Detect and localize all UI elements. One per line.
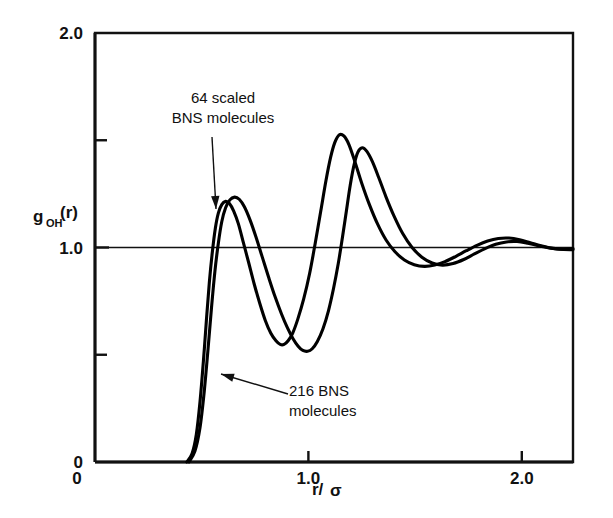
annot-64-scaled-arrowhead bbox=[211, 196, 219, 209]
y-tick-label-0: 0 bbox=[74, 453, 83, 472]
annot-64-scaled-line-1: BNS molecules bbox=[172, 109, 275, 126]
curve-annotations: 64 scaledBNS molecules216 BNSmolecules bbox=[172, 89, 357, 419]
rdf-chart: 01.02.001.02.0 64 scaledBNS molecules216… bbox=[0, 0, 613, 518]
annot-216-arrowhead bbox=[221, 374, 235, 382]
y-tick-label-2: 1.0 bbox=[59, 239, 83, 258]
annot-64-scaled-line-0: 64 scaled bbox=[191, 89, 255, 106]
annot-216-line-0: 216 BNS bbox=[289, 382, 349, 399]
figure-container: 01.02.001.02.0 64 scaledBNS molecules216… bbox=[0, 0, 613, 518]
x-tick-label-2: 2.0 bbox=[510, 469, 534, 488]
y-axis-label: g bbox=[33, 207, 43, 226]
y-tick-label-4: 2.0 bbox=[59, 24, 83, 43]
curve-series-1 bbox=[189, 148, 573, 462]
data-curves bbox=[187, 134, 573, 462]
x-axis-label-sigma: σ bbox=[330, 481, 342, 500]
annot-216-line-1: molecules bbox=[289, 402, 357, 419]
y-axis-label-variable: (r) bbox=[60, 203, 78, 222]
x-axis-label: r/ bbox=[312, 480, 324, 499]
